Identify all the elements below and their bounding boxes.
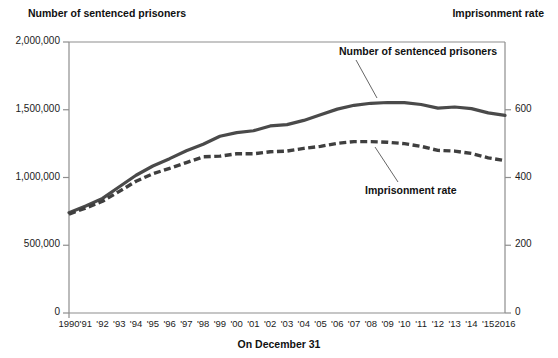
x-tick-label: '09 <box>381 318 393 329</box>
x-tick-label: '94 <box>130 318 142 329</box>
x-tick-label: '14 <box>465 318 477 329</box>
x-tick-label: '98 <box>197 318 209 329</box>
x-tick-label: 2016 <box>494 318 515 329</box>
chart-container: Number of sentenced prisoners Imprisonme… <box>0 0 558 358</box>
x-tick-label: '91 <box>80 318 92 329</box>
x-tick-label: '95 <box>147 318 159 329</box>
right-tick-label: 0 <box>515 306 521 317</box>
x-tick-label: '13 <box>448 318 460 329</box>
left-tick-label: 0 <box>54 306 60 317</box>
series-line-prisoners <box>69 102 505 212</box>
x-tick-label: '08 <box>365 318 377 329</box>
x-tick-label: '02 <box>264 318 276 329</box>
x-tick-label: '03 <box>281 318 293 329</box>
left-axis-ticks <box>63 42 69 313</box>
x-axis-title: On December 31 <box>0 338 558 350</box>
right-axis-ticks <box>505 110 511 313</box>
right-tick-label: 200 <box>515 238 532 249</box>
x-tick-label: '11 <box>415 318 427 329</box>
x-tick-label: 1990 <box>58 318 79 329</box>
annotation-rate: Imprisonment rate <box>365 184 457 196</box>
x-tick-label: '12 <box>432 318 444 329</box>
left-tick-label: 500,000 <box>24 238 60 249</box>
x-tick-label: '04 <box>298 318 310 329</box>
x-tick-label: '93 <box>113 318 125 329</box>
left-tick-label: 1,000,000 <box>16 171 61 182</box>
x-tick-label: '99 <box>214 318 226 329</box>
right-tick-label: 600 <box>515 103 532 114</box>
x-tick-label: '05 <box>314 318 326 329</box>
x-tick-label: '96 <box>163 318 175 329</box>
x-tick-label: '01 <box>247 318 259 329</box>
leader-line-rate <box>375 147 398 182</box>
left-tick-label: 1,500,000 <box>16 103 61 114</box>
left-tick-label: 2,000,000 <box>16 35 61 46</box>
x-tick-label: '92 <box>96 318 108 329</box>
x-tick-label: '06 <box>331 318 343 329</box>
x-tick-label: '10 <box>398 318 410 329</box>
x-tick-label: '00 <box>230 318 242 329</box>
x-tick-label: '15 <box>482 318 494 329</box>
leader-line-prisoners <box>356 60 377 98</box>
x-tick-label: '97 <box>180 318 192 329</box>
annotation-prisoners: Number of sentenced prisoners <box>339 45 497 57</box>
right-tick-label: 400 <box>515 171 532 182</box>
x-tick-label: '07 <box>348 318 360 329</box>
